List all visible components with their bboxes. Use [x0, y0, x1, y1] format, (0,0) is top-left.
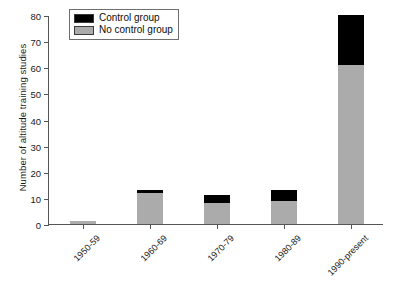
x-tick-mark [150, 224, 151, 229]
x-tick-label: 1980-89 [272, 233, 302, 263]
y-tick-mark [44, 42, 49, 43]
y-tick-mark [44, 16, 49, 17]
legend-label-no-control-group: No control group [99, 25, 173, 35]
bar-segment-no-control-group [338, 65, 364, 224]
bar-1950-59 [70, 221, 96, 224]
bar-1990-present [338, 15, 364, 224]
y-tick-mark [44, 94, 49, 95]
bar-segment-no-control-group [137, 193, 163, 224]
bar-1980-89 [271, 190, 297, 224]
legend-item-control-group: Control group [74, 12, 173, 24]
y-tick-label: 20 [30, 167, 41, 178]
y-tick-label: 0 [36, 220, 41, 231]
y-tick-label: 40 [30, 115, 41, 126]
x-tick-label: 1950-59 [71, 233, 101, 263]
x-tick-label: 1960-69 [138, 233, 168, 263]
x-tick-label: 1990-present [325, 233, 370, 278]
y-axis-title: Number of altitude training studies [17, 8, 28, 228]
bar-segment-control-group [271, 190, 297, 200]
y-tick-mark [44, 225, 49, 226]
y-tick-label: 10 [30, 193, 41, 204]
legend-item-no-control-group: No control group [74, 24, 173, 36]
y-tick-mark [44, 173, 49, 174]
bar-segment-no-control-group [204, 203, 230, 224]
y-tick-mark [44, 121, 49, 122]
chart-legend: Control group No control group [69, 9, 179, 40]
y-tick-label: 30 [30, 141, 41, 152]
x-tick-mark [284, 224, 285, 229]
bar-segment-no-control-group [271, 201, 297, 225]
bar-1970-79 [204, 195, 230, 224]
x-tick-mark [351, 224, 352, 229]
legend-label-control-group: Control group [99, 13, 160, 23]
bar-segment-control-group [137, 190, 163, 193]
x-tick-mark [217, 224, 218, 229]
bar-1960-69 [137, 190, 163, 224]
y-tick-label: 50 [30, 89, 41, 100]
legend-swatch-no-control-group [74, 26, 94, 35]
legend-swatch-control-group [74, 14, 94, 23]
x-tick-mark [83, 224, 84, 229]
plot-area: 01020304050607080 1950-591960-691970-791… [48, 16, 383, 225]
y-tick-label: 80 [30, 11, 41, 22]
bar-segment-no-control-group [70, 221, 96, 224]
y-tick-label: 60 [30, 63, 41, 74]
bar-segment-control-group [204, 195, 230, 203]
y-tick-mark [44, 199, 49, 200]
y-tick-label: 70 [30, 37, 41, 48]
y-tick-mark [44, 147, 49, 148]
altitude-training-studies-chart: Number of altitude training studies 0102… [0, 0, 394, 289]
x-tick-label: 1970-79 [205, 233, 235, 263]
bar-segment-control-group [338, 15, 364, 65]
y-tick-mark [44, 68, 49, 69]
